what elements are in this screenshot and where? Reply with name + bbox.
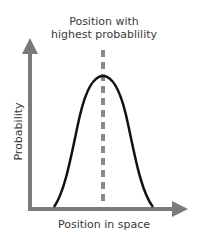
title-line-2: highest probablility <box>0 28 200 41</box>
y-axis-label: Probability <box>12 92 25 172</box>
x-axis-label: Position in space <box>0 218 200 231</box>
probability-diagram: Position with highest probablility Posit… <box>0 0 200 240</box>
title-line-1: Position with <box>0 15 200 28</box>
peak-annotation-label: Position with highest probablility <box>0 15 200 41</box>
x-axis-arrow-icon <box>172 201 188 217</box>
